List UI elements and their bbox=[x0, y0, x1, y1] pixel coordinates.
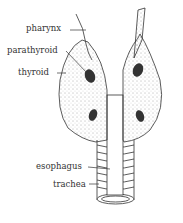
label-esophagus: esophagus bbox=[36, 162, 82, 171]
label-trachea: trachea bbox=[53, 180, 86, 189]
label-thyroid: thyroid bbox=[18, 68, 49, 77]
esophagus bbox=[107, 95, 123, 195]
label-pharynx: pharynx bbox=[26, 24, 61, 33]
label-parathyroid: parathyroid bbox=[7, 46, 58, 55]
thyroid-illustration bbox=[0, 0, 183, 223]
thyroid-right-lobe bbox=[123, 34, 162, 142]
thyroid-left-lobe bbox=[59, 40, 107, 142]
